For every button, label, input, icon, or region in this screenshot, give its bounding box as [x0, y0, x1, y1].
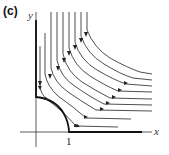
streamline-3 [51, 12, 152, 111]
streamline-6 [69, 12, 152, 92]
arrow-icon [48, 74, 52, 79]
streamline-1 [40, 46, 118, 127]
streamline-plot [0, 0, 169, 155]
arrow-icon [38, 81, 42, 86]
streamline-4 [57, 12, 152, 105]
streamline-7 [75, 12, 152, 86]
streamline-9 [87, 12, 152, 74]
arrow-icon [84, 32, 88, 37]
arrow-icon [67, 51, 71, 56]
streamline-8 [81, 12, 152, 80]
arrow-icon [73, 45, 77, 50]
boundary-curve [36, 20, 142, 132]
